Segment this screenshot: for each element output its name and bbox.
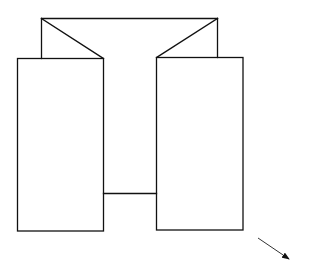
right-fold-diagonal: [157, 19, 218, 58]
left-fold-diagonal: [42, 19, 104, 59]
left-panel: [18, 59, 104, 232]
right-panel: [157, 58, 244, 231]
folded-panel-diagram: [0, 0, 309, 275]
direction-arrow-icon: [258, 238, 289, 259]
